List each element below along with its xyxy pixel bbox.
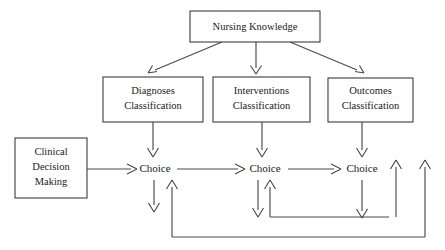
edge-interventions-to-choice-2 (257, 122, 268, 157)
clinical-decision-making-label-line-1: Clinical (34, 146, 67, 157)
box-diagnoses-classification[interactable]: Diagnoses Classification (103, 77, 203, 122)
edge-choice-2-to-choice-3 (288, 164, 341, 174)
interventions-classification-label-line-2: Classification (233, 100, 291, 111)
diagnoses-classification-label-line-2: Classification (124, 100, 182, 111)
box-clinical-decision-making[interactable]: Clinical Decision Making (15, 138, 87, 198)
outcomes-classification-label-line-2: Classification (342, 100, 400, 111)
edge-choice-3-feedback-to-choice-2 (265, 180, 390, 218)
box-interventions-classification[interactable]: Interventions Classification (213, 77, 310, 122)
edge-choice-1-to-choice-2 (177, 164, 245, 174)
choice-2-label: Choice (249, 162, 280, 174)
node-choice-3[interactable]: Choice (346, 162, 377, 174)
edge-choice-2-down-stub (253, 180, 264, 217)
clinical-decision-making-label-line-3: Making (35, 176, 68, 187)
outcomes-classification-label-line-1: Outcomes (349, 85, 392, 96)
edge-bottom-feedback-to-choice-1 (167, 160, 431, 237)
edge-clinical-decision-making-to-choice-1 (87, 164, 137, 174)
edge-outcomes-to-choice-3 (357, 122, 368, 157)
diagram-canvas: Nursing Knowledge Diagnoses Classificati… (0, 0, 445, 250)
node-choice-1[interactable]: Choice (139, 162, 170, 174)
choice-3-label: Choice (346, 162, 377, 174)
clinical-decision-making-label-line-2: Decision (32, 161, 70, 172)
edge-nursing-knowledge-to-outcomes (290, 42, 364, 73)
choice-1-label: Choice (139, 162, 170, 174)
box-outcomes-classification[interactable]: Outcomes Classification (328, 78, 413, 122)
box-nursing-knowledge[interactable]: Nursing Knowledge (190, 11, 320, 42)
edge-choice-1-down-stub (149, 180, 160, 212)
edge-nursing-knowledge-to-diagnoses (148, 42, 222, 73)
interventions-classification-label-line-1: Interventions (234, 85, 289, 96)
edge-nursing-knowledge-to-interventions (251, 42, 262, 74)
flowchart-diagram: Nursing Knowledge Diagnoses Classificati… (0, 0, 445, 250)
edge-diagnoses-to-choice-1 (148, 122, 159, 157)
edge-outer-right-feedback-to-choice-3 (391, 160, 402, 217)
node-choice-2[interactable]: Choice (249, 162, 280, 174)
nursing-knowledge-label: Nursing Knowledge (213, 21, 298, 32)
diagnoses-classification-label-line-1: Diagnoses (131, 85, 175, 96)
